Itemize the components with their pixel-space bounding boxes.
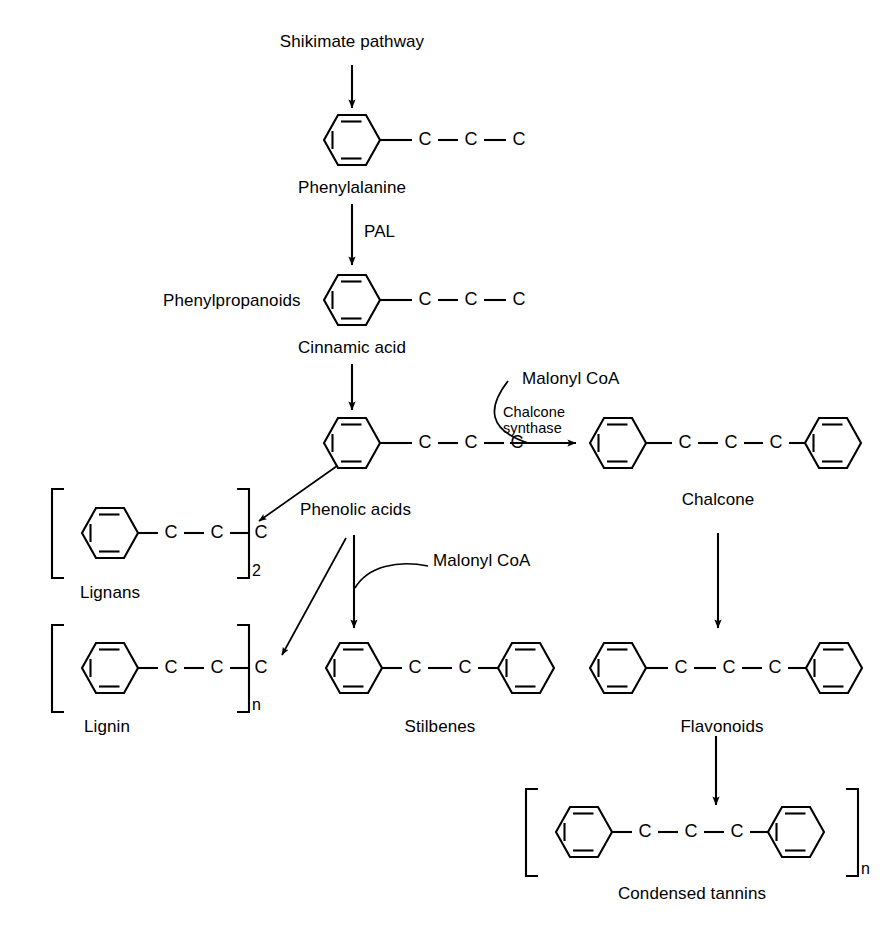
carbon-atom-flavonoids-3: C [768,657,781,677]
carbon-atom-phenolic-acids-3: C [510,432,523,452]
structure-cinnamic-acid [324,275,506,325]
carbon-atom-phenylalanine-1: C [418,129,431,149]
cofactor-label-malonyl-coa-stilbenes: Malonyl CoA [433,551,530,570]
node-label-flavonoids: Flavonoids [680,717,763,736]
carbon-atom-lignans-2: C [210,522,223,542]
structure-phenylalanine [324,115,506,165]
enzyme-label-pal: PAL [364,222,395,241]
carbon-atom-lignans-1: C [164,522,177,542]
subscript-lignans: 2 [252,562,261,580]
structure-stilbenes [326,643,554,693]
curve-malonyl-coa-stilbenes [355,564,428,588]
carbon-atom-cinnamic-acid-2: C [464,289,477,309]
carbon-atom-phenolic-acids-1: C [418,432,431,452]
node-label-phenylpropanoids: Phenylpropanoids [163,291,301,310]
node-label-shikimate-pathway: Shikimate pathway [280,32,424,51]
carbon-atom-condensed-tannins-2: C [684,821,697,841]
pathway-diagram [0,0,890,935]
node-label-phenylalanine: Phenylalanine [298,178,406,197]
carbon-atom-condensed-tannins-1: C [638,821,651,841]
carbon-atom-condensed-tannins-3: C [730,821,743,841]
node-label-stilbenes: Stilbenes [405,717,476,736]
carbon-atom-lignin-3: C [254,657,267,677]
figure-canvas: Shikimate pathway Phenylalanine Phenylpr… [0,0,890,935]
carbon-atom-chalcone-2: C [724,432,737,452]
carbon-atom-lignans-3: C [254,522,267,542]
carbon-atom-flavonoids-2: C [722,657,735,677]
carbon-atom-cinnamic-acid-3: C [512,289,525,309]
carbon-atom-lignin-2: C [210,657,223,677]
enzyme-label-chalcone-synthase-line1: Chalcone [503,404,565,420]
node-label-phenolic-acids: Phenolic acids [300,500,411,519]
carbon-atom-chalcone-1: C [678,432,691,452]
cofactor-label-malonyl-coa-chalcone: Malonyl CoA [522,369,619,388]
carbon-atom-stilbenes-2: C [458,657,471,677]
carbon-atom-chalcone-3: C [769,432,782,452]
subscript-condensed-tannins: n [861,860,870,878]
node-label-condensed-tannins: Condensed tannins [618,884,766,903]
carbon-atom-cinnamic-acid-1: C [418,289,431,309]
carbon-atom-lignin-1: C [164,657,177,677]
carbon-atom-phenolic-acids-2: C [464,432,477,452]
arrow-phenolic-to-lignin [282,538,346,655]
carbon-atom-flavonoids-1: C [674,657,687,677]
carbon-atom-phenylalanine-3: C [512,129,525,149]
carbon-atom-stilbenes-1: C [408,657,421,677]
node-label-lignin: Lignin [84,717,130,736]
node-label-lignans: Lignans [80,583,140,602]
carbon-atom-phenylalanine-2: C [464,129,477,149]
node-label-cinnamic-acid: Cinnamic acid [298,338,406,357]
node-label-chalcone: Chalcone [682,490,755,509]
subscript-lignin: n [252,696,261,714]
